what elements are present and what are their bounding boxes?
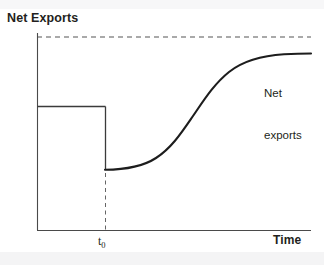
series-callout-label: Net exports [264, 58, 302, 170]
series-callout-line-1: Net [264, 86, 302, 100]
t0-tick-label: t0 [98, 234, 106, 249]
y-axis-title: Net Exports [7, 11, 78, 25]
series-callout-line-2: exports [264, 128, 302, 142]
x-axis-title: Time [273, 233, 301, 247]
t0-subscript: 0 [101, 240, 105, 250]
chart-figure: Net Exports Time t0 Net exports [0, 0, 324, 265]
